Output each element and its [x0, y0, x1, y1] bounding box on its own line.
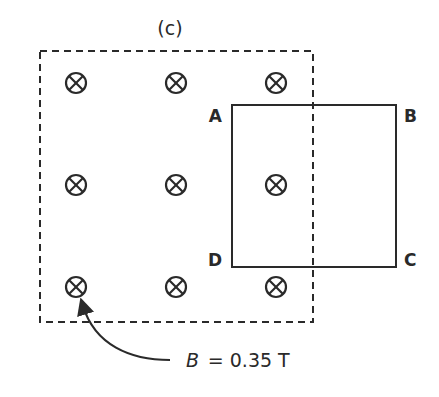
cross-circle-icon — [266, 73, 286, 93]
cross-circle-icon — [166, 175, 186, 195]
corner-label-b: B — [404, 106, 417, 126]
corner-label-d: D — [208, 250, 222, 270]
cross-circle-icon — [66, 277, 86, 297]
cross-circle-icon — [66, 175, 86, 195]
cross-circle-icon — [166, 277, 186, 297]
field-value-label: B = 0.35 T — [186, 349, 290, 371]
field-symbol: B — [186, 349, 199, 371]
corner-label-c: C — [404, 250, 416, 270]
cross-circle-icon — [166, 73, 186, 93]
diagram-canvas: (c) A B C D B = 0.35 T — [0, 0, 439, 397]
field-symbols — [66, 73, 286, 297]
corner-label-a: A — [209, 106, 223, 126]
field-value: = 0.35 T — [208, 349, 290, 371]
pointer-arrow-icon — [83, 306, 170, 360]
cross-circle-icon — [266, 277, 286, 297]
cross-circle-icon — [266, 175, 286, 195]
cross-circle-icon — [66, 73, 86, 93]
panel-label: (c) — [157, 17, 182, 39]
